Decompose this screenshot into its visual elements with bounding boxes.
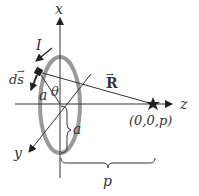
ds-element (34, 67, 44, 77)
distance-brace (61, 158, 155, 168)
z-axis-label: z (179, 96, 188, 112)
field-point-star (146, 97, 160, 110)
r-vector-arrow: → (106, 69, 114, 79)
radius-top-label: a (39, 87, 47, 103)
y-axis-label: y (13, 145, 23, 161)
point-label: (0,0,p) (129, 113, 172, 128)
ds-vector-arrow: → (17, 66, 25, 76)
x-axis-label: x (55, 1, 63, 17)
theta-label: θ (51, 84, 59, 99)
distance-label: p (103, 173, 112, 189)
current-label: I (35, 37, 42, 53)
current-loop-diagram: x z y I ds → a θ R → a (0,0,p) p (0, 0, 199, 196)
ds-arrow (31, 75, 37, 90)
radius-brace-label: a (73, 121, 81, 137)
